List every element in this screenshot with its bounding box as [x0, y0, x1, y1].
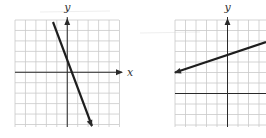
right-axes — [175, 17, 266, 127]
left-x-axis-label: x — [127, 66, 134, 79]
line-arrow-icon — [87, 119, 93, 127]
left-y-axis-label: y — [63, 1, 71, 14]
scan-artifact — [40, 11, 110, 12]
right-data-line — [174, 42, 266, 73]
left-data-line — [53, 22, 92, 127]
right-graph: y — [174, 1, 266, 127]
scan-artifact — [140, 32, 200, 33]
right-grid — [175, 20, 266, 127]
y-axis-arrow-icon — [225, 18, 231, 25]
data-line — [53, 22, 92, 126]
y-axis-arrow-icon — [64, 18, 70, 25]
data-line — [175, 42, 266, 73]
right-y-axis-label: y — [224, 1, 232, 14]
graphs-figure: y x y — [0, 0, 266, 138]
left-axes — [15, 17, 123, 127]
left-graph: y x — [15, 1, 134, 127]
